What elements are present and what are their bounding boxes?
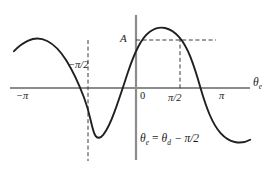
equation-rhs-subscript: d — [167, 138, 171, 147]
x-axis-label: θe — [253, 77, 262, 89]
equation-lhs-theta: θ — [140, 132, 146, 144]
x-axis-label-subscript: e — [259, 82, 262, 91]
amplitude-label: A — [120, 33, 127, 44]
equation-minus: − — [175, 132, 182, 144]
tick-label-neg-half-pi: −π/2 — [68, 60, 89, 71]
cosine-error-figure: A −π −π/2 0 π/2 π θe θe=θd−π/2 — [0, 0, 279, 171]
tick-label-half-pi: π/2 — [168, 93, 181, 104]
tick-label-zero: 0 — [140, 91, 145, 102]
equation-lhs-subscript: e — [146, 138, 149, 147]
equation-label: θe=θd−π/2 — [140, 133, 199, 145]
x-axis-label-theta: θ — [253, 76, 259, 88]
equation-equals: = — [152, 132, 159, 144]
tick-label-pi: π — [219, 91, 224, 102]
error-curve — [14, 28, 250, 143]
equation-term: π/2 — [184, 132, 199, 144]
plot-canvas — [0, 0, 279, 171]
tick-label-neg-pi: −π — [16, 91, 28, 102]
